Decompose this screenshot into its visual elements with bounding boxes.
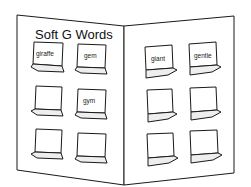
pocket[interactable]: gem xyxy=(75,44,107,74)
card-word: gentle xyxy=(194,52,212,60)
pocket[interactable] xyxy=(190,130,222,163)
pocket[interactable]: gym xyxy=(75,89,107,119)
folder-diagram: Soft G Words giraffe gem gym giant xyxy=(0,0,251,187)
pocket[interactable]: gentle xyxy=(189,42,221,75)
pocket[interactable] xyxy=(147,133,178,166)
pocket[interactable] xyxy=(31,86,63,116)
card-word: gym xyxy=(83,97,95,105)
pocket[interactable]: giraffe xyxy=(31,42,64,72)
pocket[interactable] xyxy=(147,89,177,122)
pocket[interactable]: giant xyxy=(145,45,177,78)
folder-title: Soft G Words xyxy=(35,27,113,42)
right-page xyxy=(124,16,234,185)
pocket[interactable] xyxy=(75,133,107,163)
card-word: giraffe xyxy=(36,50,54,58)
pocket[interactable] xyxy=(190,87,221,120)
pocket[interactable] xyxy=(31,129,63,159)
card-word: gem xyxy=(84,52,97,60)
card-word: giant xyxy=(151,55,165,63)
